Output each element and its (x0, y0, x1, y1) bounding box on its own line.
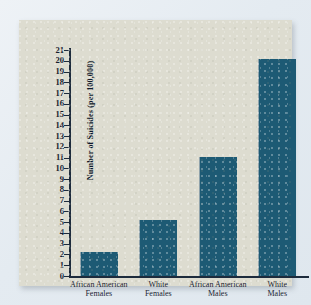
y-tick-mark (64, 179, 69, 180)
y-tick-mark (64, 190, 69, 191)
y-tick-label: 10 (46, 164, 64, 173)
y-tick-mark (64, 115, 69, 116)
y-tick-mark (64, 276, 69, 277)
y-tick-3: 3 (19, 244, 82, 245)
category-label-1: WhiteFemales (129, 280, 189, 298)
y-tick-label: 3 (46, 239, 64, 248)
y-tick-4: 4 (19, 233, 82, 234)
y-tick-mark (64, 136, 69, 137)
y-tick-mark (64, 104, 69, 105)
y-tick-mark (64, 244, 69, 245)
y-tick-label: 16 (46, 99, 64, 108)
bar-2 (199, 157, 237, 276)
y-tick-mark (64, 50, 69, 51)
y-tick-mark (64, 93, 69, 94)
y-tick-mark (64, 254, 69, 255)
bar-3 (258, 59, 296, 276)
chart-figure: 0123456789101112131415161718192021 Numbe… (0, 0, 311, 305)
y-tick-20: 20 (19, 61, 82, 62)
category-label-line2: Females (129, 289, 189, 298)
x-axis-line (69, 276, 309, 278)
y-tick-label: 4 (46, 228, 64, 237)
y-tick-13: 13 (19, 136, 82, 137)
category-label-0: African AmericanFemales (69, 280, 129, 298)
y-tick-mark (64, 147, 69, 148)
category-label-line2: Males (248, 289, 308, 298)
y-tick-label: 15 (46, 110, 64, 119)
y-tick-8: 8 (19, 190, 82, 191)
y-tick-label: 9 (46, 175, 64, 184)
bar-0 (80, 252, 118, 276)
category-label-line1: White (129, 280, 189, 289)
y-tick-6: 6 (19, 211, 82, 212)
bar-1 (139, 220, 177, 276)
chart-panel: 0123456789101112131415161718192021 Numbe… (19, 20, 292, 286)
y-tick-label: 8 (46, 185, 64, 194)
y-tick-label: 19 (46, 67, 64, 76)
y-tick-17: 17 (19, 93, 82, 94)
y-tick-9: 9 (19, 179, 82, 180)
y-tick-label: 7 (46, 196, 64, 205)
y-tick-label: 6 (46, 207, 64, 216)
category-label-line1: African American (188, 280, 248, 289)
y-tick-mark (64, 61, 69, 62)
y-tick-label: 21 (46, 46, 64, 55)
y-tick-10: 10 (19, 168, 82, 169)
y-axis-title: Number of Suicides (per 100,000) (86, 41, 95, 201)
y-tick-mark (64, 222, 69, 223)
y-tick-18: 18 (19, 82, 82, 83)
y-tick-mark (64, 72, 69, 73)
y-tick-label: 14 (46, 121, 64, 130)
y-tick-12: 12 (19, 147, 82, 148)
y-tick-19: 19 (19, 72, 82, 73)
y-tick-label: 0 (46, 272, 64, 281)
category-label-3: WhiteMales (248, 280, 308, 298)
y-tick-label: 13 (46, 132, 64, 141)
y-tick-mark (64, 201, 69, 202)
y-tick-mark (64, 158, 69, 159)
category-label-2: African AmericanMales (188, 280, 248, 298)
category-label-line2: Males (188, 289, 248, 298)
y-tick-21: 21 (19, 50, 82, 51)
y-tick-15: 15 (19, 115, 82, 116)
y-tick-label: 20 (46, 56, 64, 65)
y-tick-label: 18 (46, 78, 64, 87)
y-tick-label: 11 (46, 153, 64, 162)
y-tick-mark (64, 82, 69, 83)
y-tick-mark (64, 125, 69, 126)
y-tick-mark (64, 211, 69, 212)
category-label-line2: Females (69, 289, 129, 298)
y-tick-0: 0 (19, 276, 82, 277)
y-tick-11: 11 (19, 158, 82, 159)
y-tick-label: 17 (46, 89, 64, 98)
y-tick-label: 2 (46, 250, 64, 259)
y-tick-label: 5 (46, 218, 64, 227)
category-label-line1: White (248, 280, 308, 289)
y-tick-mark (64, 233, 69, 234)
y-tick-label: 12 (46, 142, 64, 151)
y-tick-14: 14 (19, 125, 82, 126)
y-tick-mark (64, 168, 69, 169)
y-tick-7: 7 (19, 201, 82, 202)
category-label-line1: African American (69, 280, 129, 289)
y-tick-label: 1 (46, 261, 64, 270)
y-tick-2: 2 (19, 254, 82, 255)
y-tick-5: 5 (19, 222, 82, 223)
y-tick-mark (64, 265, 69, 266)
y-tick-16: 16 (19, 104, 82, 105)
y-tick-1: 1 (19, 265, 82, 266)
